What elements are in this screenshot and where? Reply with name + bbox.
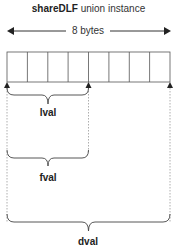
arrow-right-icon	[164, 27, 171, 35]
arrow-left-icon	[7, 27, 14, 35]
dval-brace	[7, 214, 170, 231]
fval-label: fval	[28, 172, 68, 183]
offset-markers	[4, 82, 173, 88]
lval-label: lval	[28, 107, 68, 118]
byte-cells	[7, 52, 170, 82]
fval-brace	[7, 150, 89, 166]
lval-brace	[7, 88, 89, 104]
union-diagram	[0, 0, 177, 252]
marker-mid-icon	[86, 82, 92, 88]
dval-label: dval	[68, 236, 108, 247]
size-label: 8 bytes	[66, 25, 110, 36]
marker-start-icon	[4, 82, 10, 88]
marker-end-icon	[167, 82, 173, 88]
